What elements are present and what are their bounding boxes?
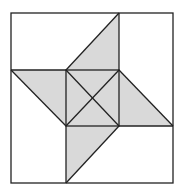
pinwheel-diagram [0,0,183,190]
